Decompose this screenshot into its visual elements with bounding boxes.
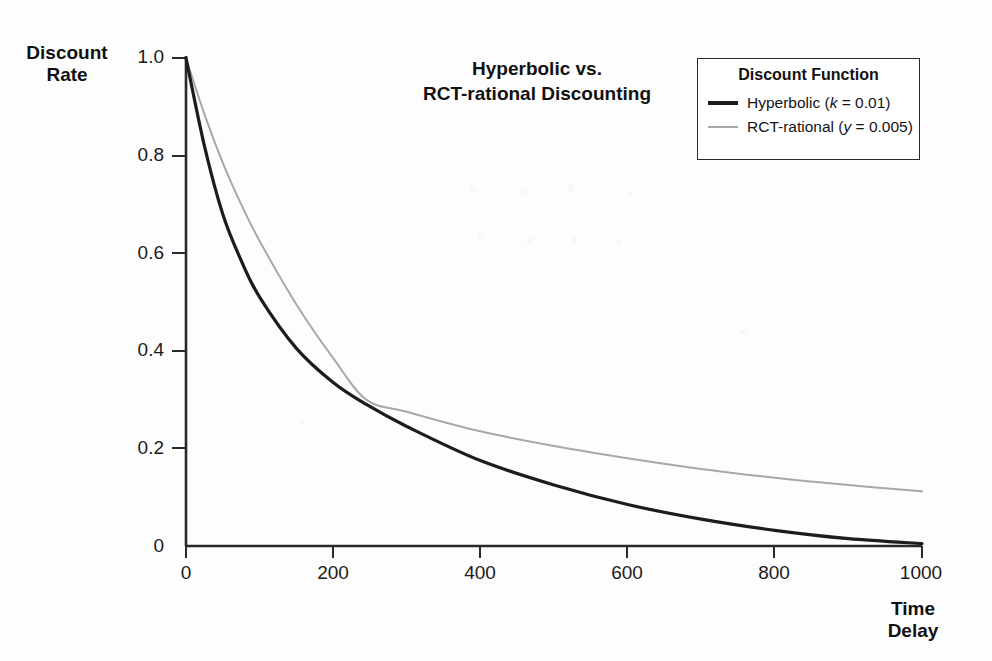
legend-item-label: RCT-rational (y = 0.005) [747, 118, 913, 136]
legend-item-hyperbolic[interactable]: Hyperbolic (k = 0.01) [698, 91, 919, 115]
legend-box: Discount Function Hyperbolic (k = 0.01) … [697, 58, 920, 160]
x-axis-ticks [186, 546, 922, 558]
legend-title: Discount Function [698, 66, 919, 84]
legend-item-label: Hyperbolic (k = 0.01) [747, 94, 890, 112]
legend-item-rct-rational[interactable]: RCT-rational (y = 0.005) [698, 115, 919, 139]
chart-figure: Discount Rate Hyperbolic vs. RCT-rationa… [0, 0, 992, 661]
gray-line-swatch-icon [708, 126, 738, 129]
y-axis-ticks [172, 58, 186, 448]
black-line-swatch-icon [708, 101, 738, 105]
